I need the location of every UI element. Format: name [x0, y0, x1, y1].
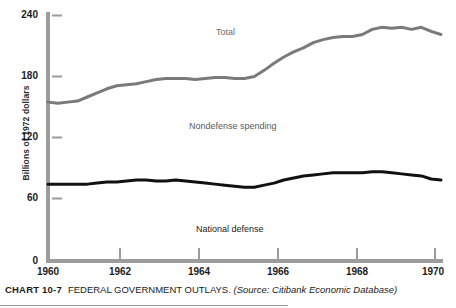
- x-tick-label-1966: 1966: [256, 266, 300, 277]
- y-tick-60: [52, 198, 62, 200]
- chart-plot-area: Billions of 1972 dollars 240 180 120 60 …: [0, 0, 456, 272]
- y-tick-label-wrap-120: 120: [8, 131, 38, 143]
- chart-caption: CHART 10-7FEDERAL GOVERNMENT OUTLAYS. (S…: [5, 284, 397, 295]
- x-axis-ticks: [119, 248, 436, 259]
- y-tick-label-wrap-180: 180: [8, 70, 38, 82]
- y-axis-ticks: [52, 15, 62, 200]
- y-tick-180: [52, 76, 62, 78]
- x-axis-line: [46, 259, 443, 263]
- x-tick-label-1968: 1968: [335, 266, 379, 277]
- y-tick-label-0: 0: [8, 255, 38, 266]
- series-label-national-defense: National defense: [196, 224, 264, 234]
- x-tick-1964: [198, 248, 200, 259]
- y-tick-label-wrap-60: 60: [8, 192, 38, 204]
- y-tick-label-120: 120: [8, 131, 38, 142]
- bottom-divider: [0, 305, 288, 306]
- series-label-total: Total: [216, 27, 235, 37]
- series-label-nondefense-spending: Nondefense spending: [189, 121, 277, 131]
- x-tick-label-1970: 1970: [411, 266, 455, 277]
- chart-figure: Billions of 1972 dollars 240 180 120 60 …: [0, 0, 456, 308]
- x-tick-label-1962: 1962: [98, 266, 142, 277]
- caption-title: FEDERAL GOVERNMENT OUTLAYS.: [68, 284, 231, 295]
- x-tick-1970: [434, 248, 436, 259]
- y-tick-label-wrap-240: 240: [8, 9, 38, 21]
- y-tick-label-180: 180: [8, 70, 38, 81]
- series-line-national-defense: [48, 172, 441, 187]
- series-line-total: [48, 27, 441, 103]
- x-tick-1968: [356, 248, 358, 259]
- x-tick-label-1960: 1960: [26, 266, 70, 277]
- y-tick-label-60: 60: [8, 192, 38, 203]
- x-tick-1962: [119, 248, 121, 259]
- y-tick-120: [52, 137, 62, 139]
- y-axis-line: [46, 12, 50, 263]
- caption-source: (Source: Citibank Economic Database): [234, 284, 398, 295]
- y-tick-label-240: 240: [8, 9, 38, 20]
- x-tick-1966: [277, 248, 279, 259]
- caption-chart-number: CHART 10-7: [5, 284, 62, 295]
- y-tick-240: [52, 15, 62, 17]
- x-tick-label-1964: 1964: [177, 266, 221, 277]
